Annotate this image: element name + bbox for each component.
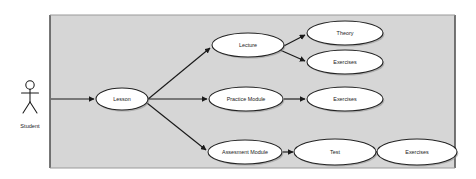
use-case-label: Practice Module xyxy=(227,96,266,102)
actor-head-icon xyxy=(26,81,34,89)
use-case-label: Exercises xyxy=(333,96,357,102)
use-case-diagram-canvas: Student LessonLectureTheoryExercisesPrac… xyxy=(0,0,476,179)
actor-left-leg-icon xyxy=(23,102,30,113)
use-case-label: Exercises xyxy=(405,149,429,155)
actor-student[interactable]: Student xyxy=(20,81,40,130)
use-case-label: Lesson xyxy=(113,96,130,102)
use-case-test[interactable]: Test xyxy=(294,139,377,167)
use-case-exercises-test[interactable]: Exercises xyxy=(377,139,458,167)
use-case-label: Assesment Module xyxy=(222,149,268,155)
diagram-surface: Student LessonLectureTheoryExercisesPrac… xyxy=(0,0,476,179)
use-case-exercises-lecture[interactable]: Exercises xyxy=(307,50,384,76)
actor-right-leg-icon xyxy=(30,102,37,113)
use-case-exercises-practice[interactable]: Exercises xyxy=(307,87,384,113)
use-case-label: Test xyxy=(330,149,340,155)
use-case-theory[interactable]: Theory xyxy=(307,21,384,47)
use-case-label: Exercises xyxy=(333,59,357,65)
use-case-practice-module[interactable]: Practice Module xyxy=(209,87,284,113)
actor-label: Student xyxy=(20,123,40,129)
use-case-assesment-module[interactable]: Assesment Module xyxy=(208,140,283,166)
use-case-label: Theory xyxy=(337,30,354,36)
use-case-lecture[interactable]: Lecture xyxy=(212,33,285,59)
use-case-label: Lecture xyxy=(239,42,257,48)
